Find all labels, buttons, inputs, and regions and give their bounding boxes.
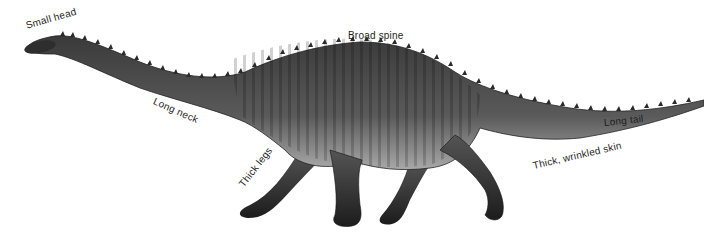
dinosaur-diagram: Small head Broad spine Long neck Long ta… [0,0,704,237]
near-front-leg [330,150,362,227]
label-broad-spine: Broad spine [348,30,404,41]
near-back-leg [440,135,503,220]
